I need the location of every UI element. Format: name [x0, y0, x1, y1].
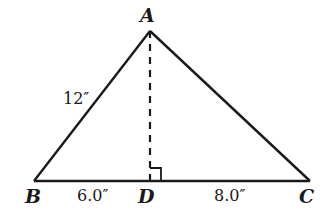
- right-angle-marker: [150, 168, 161, 181]
- vertex-label-d: D: [137, 185, 155, 207]
- length-label-ab: 12″: [63, 89, 89, 108]
- side-ac: [150, 31, 310, 181]
- length-label-dc: 8.0″: [214, 186, 245, 205]
- vertex-label-a: A: [138, 4, 155, 26]
- vertex-label-b: B: [24, 185, 41, 207]
- triangle-diagram: A B D C 12″ 6.0″ 8.0″: [0, 0, 332, 214]
- length-label-bd: 6.0″: [77, 186, 108, 205]
- vertex-label-c: C: [299, 185, 314, 207]
- side-ab: [34, 31, 150, 181]
